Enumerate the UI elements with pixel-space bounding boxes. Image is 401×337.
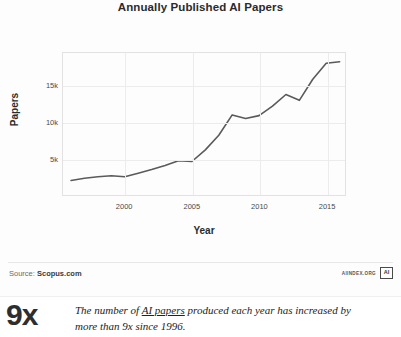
gridline-horizontal [63, 123, 345, 124]
source-note: Source: Scopus.com [9, 269, 82, 278]
x-axis-title: Year [62, 225, 346, 236]
brand-mark-text: AI [384, 270, 390, 276]
x-tick-label: 2000 [104, 202, 144, 211]
y-tick-label: 5k [34, 155, 58, 164]
source-name: Scopus.com [37, 269, 82, 278]
callout-divider [0, 296, 401, 297]
x-axis-ticks: 2000 2005 2010 2015 [62, 202, 346, 214]
callout-text-part-2: produced each year has [185, 304, 293, 316]
y-tick-label: 10k [34, 118, 58, 127]
y-axis-ticks: 5k 10k 15k [30, 52, 58, 196]
gridline-vertical [328, 53, 329, 195]
gridline-vertical [260, 53, 261, 195]
x-tick-label: 2010 [239, 202, 279, 211]
callout-text-part-1: The number of [75, 304, 142, 316]
x-tick-label: 2005 [172, 202, 212, 211]
callout-block: 9x The number of AI papers produced each… [0, 296, 401, 337]
callout-figure: 9x [6, 300, 37, 330]
gridline-vertical [193, 53, 194, 195]
brand-wordmark: AIINDEX.ORG [342, 271, 376, 276]
x-tick-label: 2015 [307, 202, 347, 211]
ai-papers-link[interactable]: AI papers [142, 304, 185, 316]
aiindex-brand: AIINDEX.ORG AI [342, 267, 393, 279]
gridline-horizontal [63, 86, 345, 87]
source-label: Source: [9, 269, 35, 278]
gridline-horizontal [63, 160, 345, 161]
aiindex-logo-icon: AI [380, 267, 393, 279]
chart-figure: Papers 5k 10k 15k 2000 2005 2010 2015 Ye… [0, 20, 401, 260]
footer-divider [8, 262, 393, 263]
y-axis-title: Papers [9, 80, 20, 140]
ai-index-papers-figure: Annually Published AI Papers Papers 5k 1… [0, 0, 401, 337]
y-tick-label: 15k [34, 81, 58, 90]
callout-text: The number of AI papers produced each ye… [75, 302, 365, 334]
plot-area [62, 52, 346, 196]
chart-title: Annually Published AI Papers [0, 1, 401, 13]
gridline-vertical [125, 53, 126, 195]
